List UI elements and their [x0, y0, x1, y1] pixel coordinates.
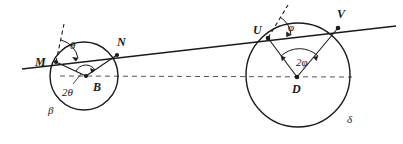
angle-arrow-theta — [73, 57, 79, 61]
axis-dashed-line — [60, 76, 352, 77]
label-point-M: M — [35, 56, 46, 68]
geometry-figure: M N B U V D θ 2θ φ 2φ β δ — [0, 0, 403, 144]
label-circle-beta: β — [48, 105, 53, 116]
label-circle-delta: δ — [347, 114, 352, 125]
label-angle-phi: φ — [288, 22, 294, 33]
point-dot-M — [54, 60, 58, 64]
label-point-N: N — [117, 36, 126, 48]
label-point-V: V — [337, 8, 345, 20]
tangent-secant-line — [22, 26, 396, 69]
dashed-ray-at-M — [56, 24, 64, 62]
angle-arc-two-phi — [281, 49, 318, 56]
leader-two-theta — [73, 74, 81, 84]
radius-BM — [56, 62, 86, 76]
label-angle-two-phi: 2φ — [296, 57, 308, 68]
point-dot-D — [295, 75, 300, 80]
label-point-U: U — [253, 24, 262, 36]
point-dot-B — [84, 74, 88, 78]
point-dot-U — [266, 36, 271, 41]
geometry-canvas — [0, 0, 403, 144]
label-angle-two-theta: 2θ — [62, 87, 73, 98]
label-point-B: B — [93, 81, 101, 93]
label-point-D: D — [292, 83, 301, 95]
point-dot-N — [115, 53, 119, 57]
point-dot-V — [336, 26, 341, 31]
label-angle-theta: θ — [70, 40, 75, 51]
